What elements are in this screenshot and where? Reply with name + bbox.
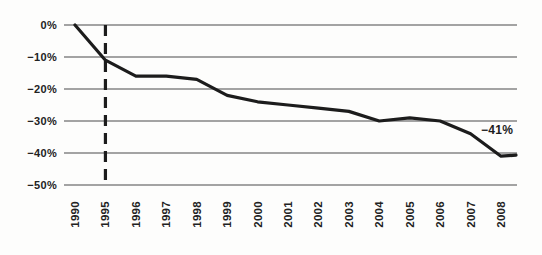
y-axis-label: 0% [41,19,58,31]
x-axis-label: 1995 [99,201,111,228]
x-axis-label: 2007 [465,201,477,228]
x-axis-label: 2004 [373,201,385,228]
value-annotation: −41% [481,123,513,137]
decline-line-chart: 0%−10%−20%−30%−40%−50%199019951996199719… [0,0,542,255]
x-axis-label: 1990 [69,201,81,228]
data-line-percent-change [75,25,516,156]
x-axis-label: 2001 [282,201,294,228]
x-axis-label: 2005 [404,201,416,228]
x-axis-label: 2006 [434,201,446,228]
y-axis-label: −30% [27,115,57,127]
y-axis-label: −40% [27,147,57,159]
x-axis-label: 2003 [343,201,355,228]
x-axis-label: 1999 [221,201,233,228]
y-axis-label: −10% [27,51,57,63]
x-axis-label: 1996 [130,201,142,228]
y-axis-label: −50% [27,179,57,191]
y-axis-label: −20% [27,83,57,95]
x-axis-label: 2000 [252,201,264,228]
x-axis-label: 2008 [495,201,507,228]
x-axis-label: 2002 [312,201,324,228]
x-axis-label: 1998 [191,201,203,228]
x-axis-label: 1997 [160,201,172,228]
chart-figure: 0%−10%−20%−30%−40%−50%199019951996199719… [0,0,542,255]
